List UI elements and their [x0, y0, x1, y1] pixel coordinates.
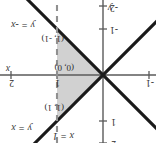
- axis-label-y: y: [108, 3, 112, 13]
- point-label-origin: (0, 0): [55, 63, 75, 72]
- axis-label-x: x: [6, 64, 10, 74]
- tick-label-x-neg1: -1: [146, 78, 154, 88]
- tick-label-y-1: 1: [111, 117, 116, 127]
- tick-label-x-2: 2: [9, 78, 14, 88]
- math-figure: 2 1 -1 -2 1 2 -1 x y (0, 0) (1, 1) (1, -…: [0, 0, 156, 143]
- tick-label-x-1: 1: [55, 78, 60, 88]
- point-label-1-neg1: (1, -1): [42, 34, 65, 43]
- line-label-y-equals-negative-x: y = -x: [11, 20, 35, 30]
- line-label-y-equals-x: y = x: [11, 123, 32, 133]
- tick-label-y-2: 2: [111, 139, 116, 144]
- line-label-x-equals-1: x = 1: [53, 131, 74, 141]
- point-label-1-1: (1, 1): [45, 103, 65, 112]
- rotated-plot-canvas: 2 1 -1 -2 1 2 -1 x y (0, 0) (1, 1) (1, -…: [0, 0, 156, 143]
- tick-label-y-neg1: -1: [110, 25, 118, 35]
